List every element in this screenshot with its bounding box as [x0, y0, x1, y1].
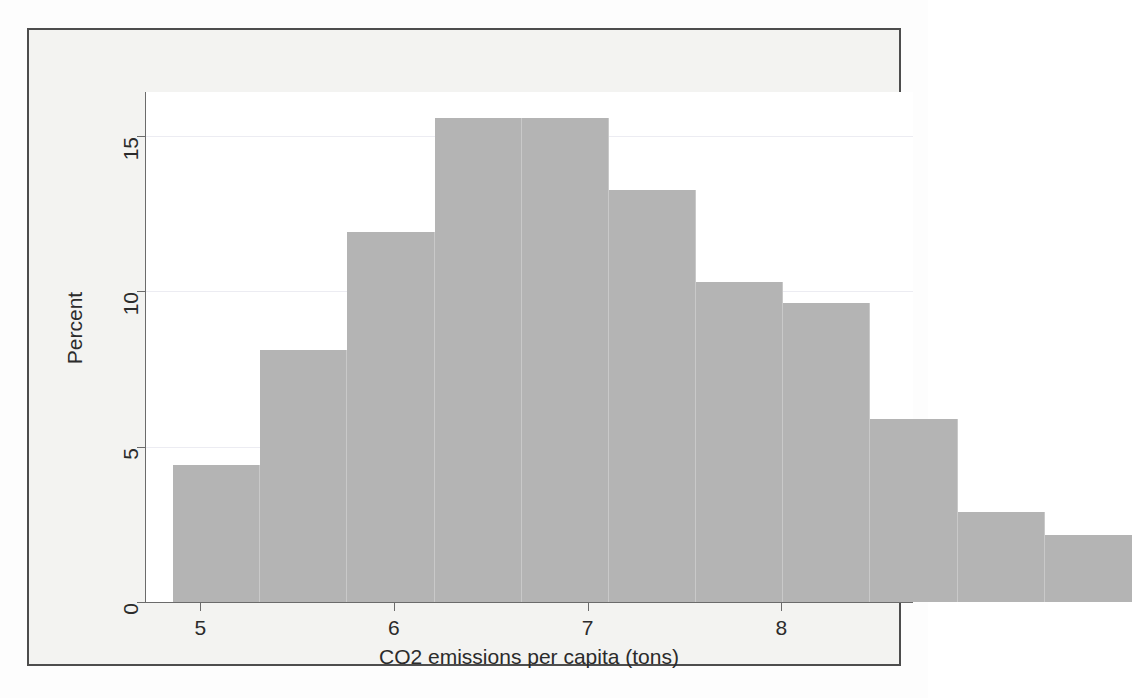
y-tick-label: 10	[119, 292, 143, 332]
x-axis-title: CO2 emissions per capita (tons)	[145, 645, 913, 669]
y-tick-label: 0	[119, 603, 143, 643]
x-tick-label: 8	[751, 616, 811, 640]
histogram-bar	[696, 282, 783, 602]
histogram-bar	[522, 118, 609, 602]
x-tick-label: 7	[558, 616, 618, 640]
figure-frame: 051015 5678 Percent CO2 emissions per ca…	[27, 28, 901, 666]
x-tick-label: 5	[170, 616, 230, 640]
histogram-bar	[347, 232, 434, 602]
histogram-bar	[870, 419, 957, 602]
x-axis-line	[145, 602, 913, 603]
histogram-bar	[609, 190, 696, 602]
histogram-bar	[783, 303, 870, 602]
y-tick-label-wrap: 10	[87, 280, 131, 302]
x-tick-mark-7	[588, 603, 589, 611]
histogram-bar	[173, 465, 260, 602]
y-tick-label: 5	[119, 448, 143, 488]
x-tick-mark-5	[200, 603, 201, 611]
x-tick-mark-8	[781, 603, 782, 611]
histogram-bar	[435, 118, 522, 602]
plot-area	[146, 92, 913, 602]
histogram-bar	[260, 350, 347, 602]
y-tick-label-wrap: 5	[87, 436, 131, 458]
y-axis-title: Percent	[63, 258, 87, 398]
y-tick-label-wrap: 0	[87, 591, 131, 613]
y-tick-label-wrap: 15	[87, 125, 131, 147]
x-tick-label: 6	[364, 616, 424, 640]
histogram-bar	[1045, 535, 1132, 602]
histogram-bar	[958, 512, 1045, 602]
y-tick-label: 15	[119, 137, 143, 177]
y-axis-line	[145, 92, 146, 603]
x-tick-mark-6	[394, 603, 395, 611]
